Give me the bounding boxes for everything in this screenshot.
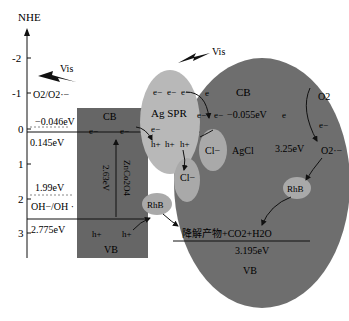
rhb-left-label: RhB <box>147 200 164 210</box>
zco-band <box>77 108 148 258</box>
degradation-products: 降解产物+CO2+H2O <box>182 227 272 239</box>
zco-gap: 2.63eV <box>101 165 111 192</box>
redox-o2-label: O2/O2·− <box>33 89 70 100</box>
lightning-right: Vis <box>178 46 225 63</box>
tick-label: 3 <box>18 227 24 239</box>
rhb-right: RhB <box>287 184 304 194</box>
hole: h+ <box>122 229 132 239</box>
agcl-cb-potential: −0.055eV <box>227 109 268 120</box>
tick-label: 1 <box>18 158 24 170</box>
lightning-icon <box>178 53 210 63</box>
tick-label: -2 <box>12 52 21 64</box>
electron: e− <box>167 87 176 97</box>
lightning-left: Vis <box>38 63 76 82</box>
electron: e− <box>151 124 160 134</box>
hole: h+ <box>92 229 102 239</box>
vis-label: Vis <box>60 63 73 74</box>
nhe-axis: NHE -2 -1 0 1 2 3 <box>12 11 41 258</box>
electron: e <box>205 88 209 98</box>
oh-potential: 1.99eV <box>35 182 65 193</box>
hole: h+ <box>180 139 190 149</box>
vis-label: Vis <box>212 46 225 57</box>
electron: e− <box>319 120 328 130</box>
agcl-vb-label: VB <box>243 265 257 276</box>
hole: h+ <box>151 139 161 149</box>
cb-potential: −0.046eV <box>35 116 76 127</box>
agcl-vb-potential: 3.195eV <box>235 245 270 256</box>
ag-spr: e− e− e− Ag SPR e− h+ h+ h+ <box>140 70 200 174</box>
zco-name: ZnCo2O4 <box>122 160 132 197</box>
tick-label: 2 <box>18 193 24 205</box>
redox-oh-label: OH−/OH · <box>31 201 74 212</box>
electron: e− <box>214 110 223 120</box>
agcl-gap: 3.25eV <box>275 143 305 154</box>
hole: h+ <box>165 139 175 149</box>
chloride-ion: Cl− <box>180 172 195 183</box>
electron: e− <box>89 126 98 136</box>
axis-title: NHE <box>18 11 41 23</box>
electron: e− <box>153 87 162 97</box>
agcl-name: AgCl <box>232 145 254 156</box>
electron: e− <box>197 110 206 120</box>
zco-cb-label: CB <box>103 111 117 122</box>
superoxide-label: O2·− <box>321 145 343 156</box>
electron: e− <box>120 126 129 136</box>
vb-edge: 2.775eV <box>31 224 66 235</box>
zco-vb-label: VB <box>104 244 118 255</box>
cb-edge: 0.145eV <box>30 137 65 148</box>
axis-ticks: -2 -1 0 1 2 3 <box>12 52 31 239</box>
electron: e <box>282 110 286 120</box>
ag-spr-label: Ag SPR <box>151 107 187 119</box>
agcl-cb-label: CB <box>236 86 251 98</box>
band-diagram: NHE -2 -1 0 1 2 3 O2/O2·− −0.046eV 0.145… <box>0 0 349 321</box>
tick-label: -1 <box>12 87 21 99</box>
o2-label: O2 <box>318 91 330 102</box>
tick-label: 0 <box>18 123 24 135</box>
chloride-ion: Cl− <box>205 145 220 156</box>
